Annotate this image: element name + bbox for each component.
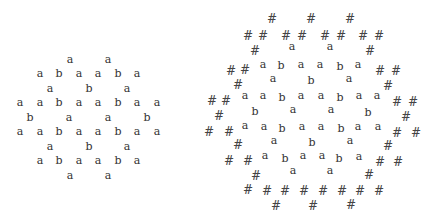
glyph-a: a: [154, 97, 161, 108]
hash-glyph: #: [226, 66, 236, 77]
glyph-b: b: [55, 126, 62, 137]
glyph-a: a: [319, 150, 326, 161]
glyph-a: a: [300, 150, 307, 161]
glyph-b: b: [114, 126, 121, 137]
glyph-a: a: [134, 126, 141, 137]
glyph-a: a: [47, 141, 54, 152]
glyph-a: a: [124, 141, 131, 152]
glyph-a: a: [105, 54, 112, 65]
hash-glyph: #: [221, 96, 231, 107]
glyph-a: a: [317, 59, 324, 70]
hash-glyph: #: [411, 128, 421, 139]
glyph-a: a: [154, 126, 161, 137]
hash-glyph: #: [392, 128, 402, 139]
glyph-a: a: [298, 59, 305, 70]
glyph-a: a: [289, 41, 296, 52]
hash-glyph: #: [204, 127, 214, 138]
hash-glyph: #: [337, 186, 347, 197]
glyph-b: b: [281, 153, 288, 164]
hash-glyph: #: [280, 186, 290, 197]
hash-glyph: #: [224, 127, 234, 138]
glyph-b: b: [278, 123, 285, 134]
glyph-b: b: [114, 97, 121, 108]
glyph-a: a: [356, 151, 363, 162]
glyph-a: a: [346, 73, 353, 84]
glyph-a: a: [356, 90, 363, 101]
glyph-a: a: [134, 155, 141, 166]
glyph-b: b: [55, 97, 62, 108]
hash-glyph: #: [251, 171, 261, 182]
hash-glyph: #: [308, 201, 318, 212]
glyph-a: a: [134, 97, 141, 108]
hash-glyph: #: [374, 186, 384, 197]
glyph-a: a: [76, 68, 83, 79]
hash-glyph: #: [358, 31, 368, 42]
glyph-a: a: [37, 126, 44, 137]
glyph-a: a: [95, 68, 102, 79]
hash-glyph: #: [408, 97, 418, 108]
glyph-b: b: [307, 75, 314, 86]
glyph-a: a: [299, 121, 306, 132]
glyph-a: a: [270, 73, 277, 84]
hash-glyph: #: [383, 81, 393, 92]
glyph-a: a: [262, 150, 269, 161]
hash-glyph: #: [391, 66, 401, 77]
glyph-b: b: [277, 60, 284, 71]
glyph-a: a: [76, 126, 83, 137]
glyph-a: a: [347, 135, 354, 146]
hash-glyph: #: [214, 111, 224, 122]
glyph-a: a: [105, 170, 112, 181]
hash-glyph: #: [271, 201, 281, 212]
glyph-a: a: [17, 126, 24, 137]
glyph-a: a: [375, 121, 382, 132]
glyph-a: a: [76, 97, 83, 108]
glyph-a: a: [76, 155, 83, 166]
glyph-a: a: [355, 121, 362, 132]
hash-glyph: #: [262, 186, 272, 197]
glyph-a: a: [37, 68, 44, 79]
hash-glyph: #: [233, 140, 243, 151]
glyph-a: a: [328, 104, 335, 115]
glyph-a: a: [95, 155, 102, 166]
glyph-a: a: [242, 120, 249, 131]
glyph-a: a: [95, 126, 102, 137]
glyph-a: a: [271, 135, 278, 146]
hash-glyph: #: [318, 186, 328, 197]
glyph-b: b: [364, 107, 371, 118]
hash-glyph: #: [375, 66, 385, 77]
hash-glyph: #: [365, 46, 375, 57]
glyph-a: a: [260, 90, 267, 101]
hash-glyph: #: [375, 157, 385, 168]
glyph-a: a: [318, 90, 325, 101]
hash-glyph: #: [267, 14, 277, 25]
glyph-b: b: [335, 153, 342, 164]
hash-glyph: #: [346, 200, 356, 211]
hash-glyph: #: [240, 65, 250, 76]
glyph-a: a: [134, 68, 141, 79]
hash-glyph: #: [374, 31, 384, 42]
glyph-a: a: [37, 97, 44, 108]
hash-glyph: #: [393, 157, 403, 168]
hash-glyph: #: [297, 31, 307, 42]
hash-glyph: #: [383, 141, 393, 152]
glyph-a: a: [327, 41, 334, 52]
glyph-a: a: [290, 104, 297, 115]
glyph-b: b: [337, 123, 344, 134]
glyph-b: b: [143, 112, 150, 123]
glyph-a: a: [242, 90, 249, 101]
hash-glyph: #: [401, 112, 411, 123]
glyph-a: a: [47, 83, 54, 94]
glyph-a: a: [374, 90, 381, 101]
hash-glyph: #: [355, 186, 365, 197]
glyph-a: a: [67, 170, 74, 181]
glyph-a: a: [355, 59, 362, 70]
glyph-a: a: [95, 97, 102, 108]
left-pattern: aaabaabaabaaabaabaabaabaabaabaaabaabaaba…: [0, 0, 190, 223]
glyph-a: a: [260, 59, 267, 70]
glyph-a: a: [327, 165, 334, 176]
hash-glyph: #: [392, 97, 402, 108]
hash-glyph: #: [258, 31, 268, 42]
hash-glyph: #: [306, 14, 316, 25]
glyph-b: b: [336, 61, 343, 72]
glyph-a: a: [298, 90, 305, 101]
